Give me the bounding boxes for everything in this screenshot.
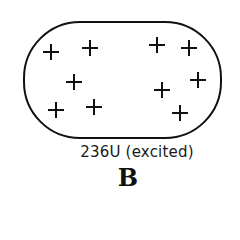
plus-charge-icon <box>86 99 102 115</box>
isotope-caption: 236U (excited) <box>0 143 240 161</box>
plus-charge-icon <box>66 74 82 90</box>
plus-charge-icon <box>48 102 64 118</box>
plus-charge-icon <box>149 37 165 53</box>
plus-charge-icon <box>154 82 170 98</box>
plus-charge-icon <box>82 40 98 56</box>
plus-charge-icon <box>181 40 197 56</box>
plus-charge-icon <box>43 44 59 60</box>
panel-label: B <box>0 163 240 192</box>
plus-charge-icon <box>190 72 206 88</box>
plus-charge-icon <box>172 105 188 121</box>
